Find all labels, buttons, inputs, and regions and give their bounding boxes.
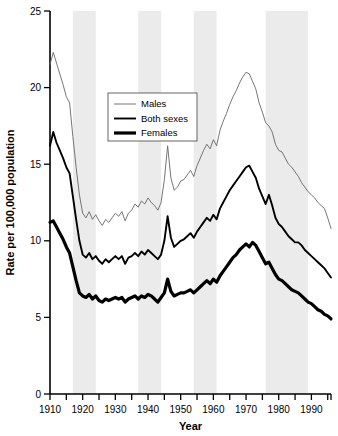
shaded-band-3 bbox=[194, 11, 217, 394]
x-tick-label-1990: 1990 bbox=[300, 404, 323, 415]
x-tick-label-1970: 1970 bbox=[235, 404, 258, 415]
x-tick-label-1920: 1920 bbox=[72, 404, 95, 415]
x-axis-title: Year bbox=[179, 420, 203, 432]
y-axis-title: Rate per 100,000 population bbox=[4, 129, 16, 275]
x-tick-label-1980: 1980 bbox=[268, 404, 291, 415]
y-tick-label-15: 15 bbox=[30, 159, 42, 170]
x-tick-label-1960: 1960 bbox=[202, 404, 225, 415]
y-tick-label-0: 0 bbox=[35, 389, 41, 400]
x-tick-label-1910: 1910 bbox=[39, 404, 62, 415]
legend-label-both-sexes: Both sexes bbox=[141, 113, 188, 124]
y-tick-label-25: 25 bbox=[30, 6, 42, 17]
chart-figure: 0510152025191019201930194019501960197019… bbox=[0, 0, 338, 436]
shaded-band-1 bbox=[73, 11, 96, 394]
legend-label-females: Females bbox=[141, 127, 178, 138]
x-tick-label-1950: 1950 bbox=[170, 404, 193, 415]
y-tick-label-10: 10 bbox=[30, 235, 42, 246]
y-tick-label-20: 20 bbox=[30, 82, 42, 93]
x-tick-label-1930: 1930 bbox=[104, 404, 127, 415]
shaded-band-2 bbox=[138, 11, 161, 394]
x-tick-label-1940: 1940 bbox=[137, 404, 160, 415]
line-chart: 0510152025191019201930194019501960197019… bbox=[0, 0, 338, 436]
legend-label-males: Males bbox=[141, 98, 167, 109]
y-tick-label-5: 5 bbox=[35, 312, 41, 323]
